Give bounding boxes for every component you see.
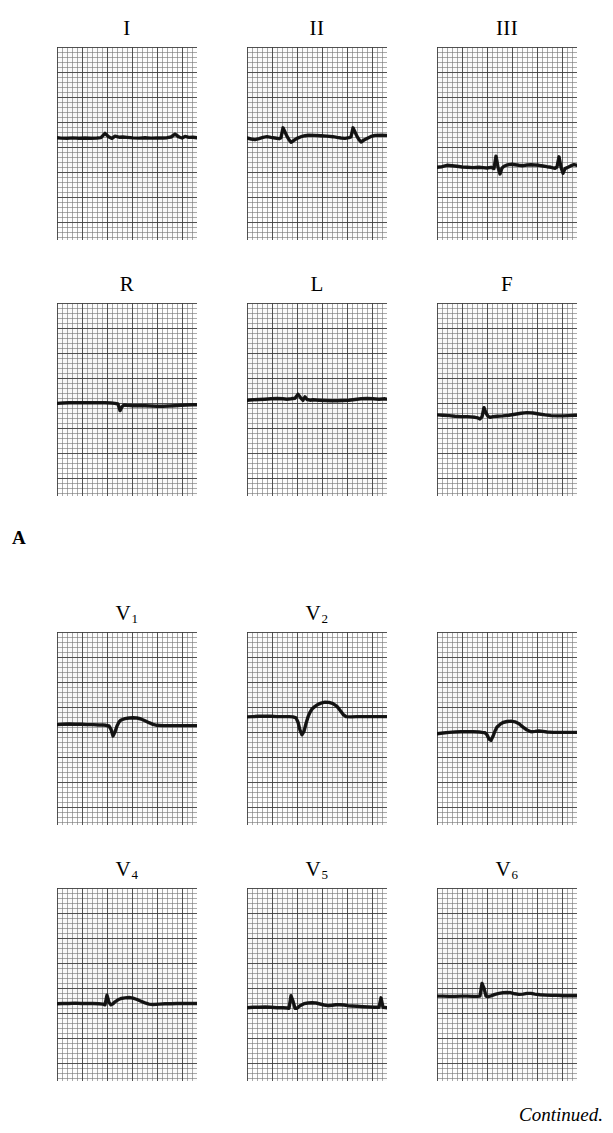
ecg-lead-panel-r: R <box>57 274 197 496</box>
lead-label-ii: II <box>247 18 387 39</box>
ecg-lead-panel-i: I <box>57 18 197 240</box>
ecg-lead-panel-v3 <box>437 603 577 825</box>
ecg-graph-paper <box>57 47 197 240</box>
ecg-graph-paper <box>247 303 387 496</box>
ecg-trace-v4 <box>57 888 197 1081</box>
ecg-trace-f <box>437 303 577 496</box>
lead-label-v4: V4 <box>57 859 197 881</box>
ecg-graph-paper <box>57 888 197 1081</box>
ecg-lead-panel-f: F <box>437 274 577 496</box>
ecg-lead-panel-v4: V4 <box>57 859 197 1081</box>
ecg-lead-panel-v2: V2 <box>247 603 387 825</box>
ecg-trace-i <box>57 47 197 240</box>
ecg-trace-iii <box>437 47 577 240</box>
ecg-graph-paper <box>437 303 577 496</box>
lead-label-subscript: 2 <box>322 611 329 626</box>
ecg-trace-l <box>247 303 387 496</box>
ecg-trace-ii <box>247 47 387 240</box>
ecg-trace-v3 <box>437 632 577 825</box>
lead-label-v2: V2 <box>247 603 387 625</box>
ecg-graph-paper <box>57 303 197 496</box>
ecg-graph-paper <box>57 632 197 825</box>
ecg-figure: IIIIIIRLFV1V2V4V5V6 A Continued. <box>0 0 613 1133</box>
ecg-trace-v1 <box>57 632 197 825</box>
ecg-trace-r <box>57 303 197 496</box>
ecg-lead-panel-v5: V5 <box>247 859 387 1081</box>
ecg-graph-paper <box>437 47 577 240</box>
lead-label-subscript: 1 <box>132 611 139 626</box>
ecg-lead-panel-l: L <box>247 274 387 496</box>
lead-label-subscript: 6 <box>512 867 519 882</box>
ecg-trace-v2 <box>247 632 387 825</box>
ecg-graph-paper <box>247 632 387 825</box>
ecg-lead-panel-v1: V1 <box>57 603 197 825</box>
lead-label-subscript: 4 <box>132 867 139 882</box>
ecg-lead-panel-ii: II <box>247 18 387 240</box>
lead-label-subscript: 5 <box>322 867 329 882</box>
ecg-trace-v6 <box>437 888 577 1081</box>
lead-label-r: R <box>57 274 197 295</box>
ecg-graph-paper <box>247 888 387 1081</box>
lead-label-v6: V6 <box>437 859 577 881</box>
lead-label-i: I <box>57 18 197 39</box>
ecg-lead-panel-iii: III <box>437 18 577 240</box>
ecg-lead-panel-v6: V6 <box>437 859 577 1081</box>
lead-label-l: L <box>247 274 387 295</box>
lead-label-iii: III <box>437 18 577 39</box>
lead-label-v1: V1 <box>57 603 197 625</box>
ecg-graph-paper <box>437 888 577 1081</box>
lead-label-v5: V5 <box>247 859 387 881</box>
ecg-trace-v5 <box>247 888 387 1081</box>
ecg-graph-paper <box>437 632 577 825</box>
panel-letter-a: A <box>12 527 26 549</box>
lead-label-f: F <box>437 274 577 295</box>
continued-note: Continued. <box>519 1104 603 1126</box>
ecg-graph-paper <box>247 47 387 240</box>
